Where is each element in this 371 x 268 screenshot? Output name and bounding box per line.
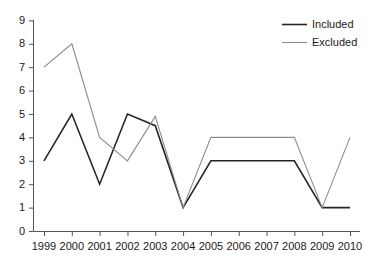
y-axis-tick-label: 4 bbox=[11, 132, 25, 143]
y-axis-tick-label: 7 bbox=[11, 62, 25, 73]
x-axis-ticks bbox=[45, 232, 351, 237]
x-axis-tick-label: 2010 bbox=[335, 241, 365, 252]
x-axis-tick-label: 1999 bbox=[29, 241, 59, 252]
x-axis-tick-label: 2006 bbox=[224, 241, 254, 252]
y-axis-tick-label: 1 bbox=[11, 202, 25, 213]
legend-swatches bbox=[282, 25, 307, 43]
x-axis-tick-label: 2004 bbox=[168, 241, 198, 252]
x-axis-tick-label: 2001 bbox=[85, 241, 115, 252]
y-axis-tick-label: 0 bbox=[11, 226, 25, 237]
x-axis-tick-label: 2008 bbox=[279, 241, 309, 252]
line-chart: 0123456789 19992000200120022003200420052… bbox=[0, 0, 371, 268]
y-axis-tick-label: 5 bbox=[11, 109, 25, 120]
y-axis-tick-label: 9 bbox=[11, 15, 25, 26]
series-lines bbox=[44, 44, 350, 208]
x-axis-tick-label: 2009 bbox=[307, 241, 337, 252]
y-axis-tick-label: 8 bbox=[11, 38, 25, 49]
y-axis-tick-label: 6 bbox=[11, 85, 25, 96]
x-axis-tick-label: 2000 bbox=[57, 241, 87, 252]
y-axis-tick-label: 3 bbox=[11, 155, 25, 166]
x-axis-tick-label: 2007 bbox=[252, 241, 282, 252]
legend-label-included: Included bbox=[312, 19, 354, 30]
y-axis-tick-label: 2 bbox=[11, 179, 25, 190]
x-axis-tick-label: 2003 bbox=[140, 241, 170, 252]
y-axis-ticks bbox=[29, 21, 34, 232]
legend-label-excluded: Excluded bbox=[312, 37, 357, 48]
x-axis-tick-label: 2002 bbox=[112, 241, 142, 252]
x-axis-tick-label: 2005 bbox=[196, 241, 226, 252]
